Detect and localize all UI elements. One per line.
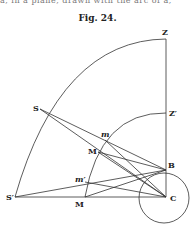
small-circle bbox=[139, 173, 189, 223]
label-Z: Z bbox=[162, 27, 168, 37]
geometry-figure: Z Z′ S S′ m M m′ M B C bbox=[0, 0, 195, 228]
label-C: C bbox=[170, 193, 176, 203]
line-mprime-C bbox=[85, 182, 166, 197]
label-S: S bbox=[33, 103, 39, 113]
line-S-B bbox=[40, 109, 166, 170]
label-S-prime: S′ bbox=[6, 192, 14, 202]
label-Z-prime: Z′ bbox=[169, 108, 177, 118]
label-M-lower: M bbox=[75, 199, 84, 209]
label-m-prime: m′ bbox=[75, 174, 86, 184]
line-m-C bbox=[105, 140, 166, 197]
label-B: B bbox=[168, 160, 175, 170]
line-M-B bbox=[98, 152, 166, 170]
line-M-B-lower bbox=[85, 170, 166, 197]
label-M-upper: M bbox=[88, 146, 97, 156]
label-m: m bbox=[101, 129, 109, 139]
